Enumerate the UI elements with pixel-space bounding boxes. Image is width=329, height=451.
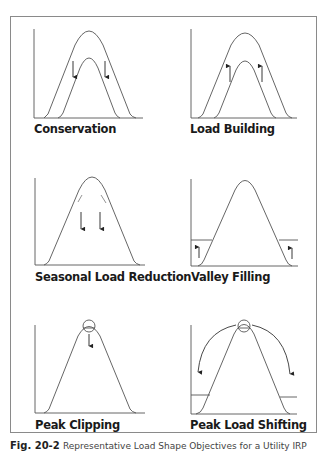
panel-label-load-building: Load Building	[190, 122, 275, 136]
original-load-curve	[214, 61, 276, 118]
original-load-curve	[44, 31, 136, 118]
panel-load-building	[191, 29, 297, 118]
load-curve	[44, 327, 136, 414]
panel-peak-load-shifting	[191, 320, 297, 414]
panel-label-valley-filling: Valley Filling	[191, 270, 270, 284]
curved-arrow-right-icon	[252, 325, 290, 374]
panel-seasonal-load-reduction	[35, 177, 145, 265]
figure-caption: Fig. 20-2 Representative Load Shape Obje…	[10, 440, 307, 451]
panel-label-conservation: Conservation	[34, 122, 116, 136]
load-curve	[198, 181, 292, 267]
reduction-mark	[78, 195, 82, 202]
reduced-load-curve	[58, 58, 120, 118]
load-shape-diagram: Conservation Load Building Seasonal Load…	[0, 0, 329, 451]
panel-valley-filling	[191, 179, 298, 266]
load-curve	[44, 177, 140, 265]
increased-load-curve	[198, 33, 292, 118]
panel-label-seasonal-load-reduction: Seasonal Load Reduction	[35, 270, 191, 284]
figure-caption-text: Representative Load Shape Objectives for…	[63, 441, 307, 451]
panel-peak-clipping	[35, 320, 145, 413]
panel-conservation	[34, 29, 143, 118]
reduction-mark	[101, 195, 106, 203]
peak-circle	[83, 320, 95, 332]
panel-label-peak-load-shifting: Peak Load Shifting	[190, 418, 307, 432]
figure-number: Fig. 20-2	[10, 440, 60, 451]
curved-arrow-left-icon	[198, 325, 236, 372]
panel-label-peak-clipping: Peak Clipping	[35, 418, 120, 432]
